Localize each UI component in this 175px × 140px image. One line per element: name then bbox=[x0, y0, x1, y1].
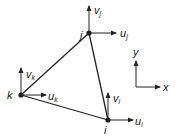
triangle-element-diagram: j k i vj uj vk uk vi ui y x bbox=[0, 0, 175, 140]
edge-k-i bbox=[21, 95, 108, 120]
node-i-label: i bbox=[104, 124, 107, 136]
node-i bbox=[105, 117, 110, 122]
v-k-label: vk bbox=[26, 68, 36, 81]
v-i-label: vi bbox=[113, 92, 121, 105]
coordinate-axes bbox=[136, 61, 160, 87]
node-j bbox=[86, 30, 91, 35]
y-axis-label: y bbox=[132, 46, 140, 58]
x-axis-label: x bbox=[162, 81, 169, 93]
node-k bbox=[18, 92, 23, 97]
u-j-label: uj bbox=[120, 27, 128, 41]
v-j-label: vj bbox=[94, 4, 102, 18]
u-k-label: uk bbox=[48, 90, 58, 103]
node-k-label: k bbox=[7, 89, 13, 101]
edge-j-k bbox=[21, 33, 89, 95]
node-j-label: j bbox=[78, 29, 83, 41]
u-i-label: ui bbox=[135, 115, 143, 128]
edge-i-j bbox=[89, 33, 108, 120]
